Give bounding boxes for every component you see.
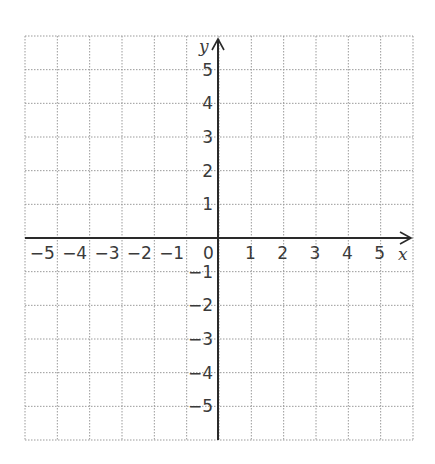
x-tick-label: −2 xyxy=(127,243,152,263)
x-tick-label: 5 xyxy=(374,243,385,263)
y-tick-label: 4 xyxy=(202,93,213,113)
y-tick-label: −5 xyxy=(188,396,213,416)
coordinate-plane: x y 0 −5−4−3−2−112345 54321−1−2−3−4−5 xyxy=(0,0,435,464)
x-axis-label: x xyxy=(398,244,408,264)
y-tick-label: 3 xyxy=(202,127,213,147)
y-tick-label: −1 xyxy=(188,262,213,282)
axes xyxy=(25,39,411,440)
x-tick-label: −5 xyxy=(30,243,55,263)
origin-label: 0 xyxy=(203,243,214,263)
y-tick-label: −3 xyxy=(188,329,213,349)
x-tick-label: −1 xyxy=(159,243,184,263)
x-tick-label: −3 xyxy=(94,243,119,263)
y-tick-label: 2 xyxy=(202,161,213,181)
y-tick-label: 5 xyxy=(202,60,213,80)
y-tick-label: −4 xyxy=(188,363,213,383)
y-axis-label: y xyxy=(198,36,209,56)
x-tick-label: −4 xyxy=(62,243,87,263)
x-tick-label: 1 xyxy=(245,243,256,263)
y-tick-label: 1 xyxy=(202,194,213,214)
x-tick-label: 3 xyxy=(310,243,321,263)
y-tick-label: −2 xyxy=(188,295,213,315)
x-tick-label: 4 xyxy=(342,243,353,263)
x-tick-label: 2 xyxy=(277,243,288,263)
